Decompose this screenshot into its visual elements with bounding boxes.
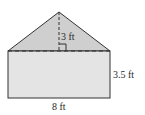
figure-svg: 3 ft 3.5 ft 8 ft bbox=[0, 0, 145, 115]
rectangle-region bbox=[8, 51, 110, 98]
base-width-label: 8 ft bbox=[52, 101, 66, 112]
triangle-height-label: 3 ft bbox=[61, 31, 75, 42]
composite-figure-diagram: 3 ft 3.5 ft 8 ft bbox=[0, 0, 145, 115]
rectangle-height-label: 3.5 ft bbox=[113, 69, 134, 80]
